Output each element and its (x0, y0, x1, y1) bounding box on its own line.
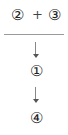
down-arrow-icon (32, 42, 40, 58)
left-operand: ② (10, 8, 24, 22)
right-operand: ③ (47, 8, 61, 22)
divider-line (4, 34, 64, 35)
step-1-symbol: ① (29, 64, 43, 78)
plus-operator: + (32, 8, 43, 22)
step-2-symbol: ④ (29, 111, 43, 125)
down-arrow-icon (32, 87, 40, 103)
